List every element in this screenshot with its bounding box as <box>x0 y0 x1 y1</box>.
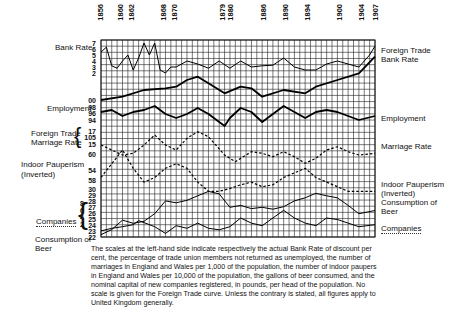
series-employment <box>101 106 375 126</box>
tick-pa-60: 60 <box>78 151 96 158</box>
label-indoor-pauperism: Indoor Pauperism <box>21 160 84 169</box>
series-indoor-pauperism-inverted <box>101 150 375 191</box>
tick-pa-54: 54 <box>78 167 96 174</box>
right-label-inverted: (Inverted) <box>381 189 415 198</box>
series-consumption-of-beer <box>101 191 375 234</box>
tick-comp-2: 2 <box>70 221 84 228</box>
series-companies <box>101 210 375 233</box>
tick-comp-6: 6 <box>70 207 84 214</box>
tick-ft-105: 105 <box>78 134 96 141</box>
tick-bank-2: 2 <box>78 70 96 77</box>
right-label-foreign-trade: Foreign Trade <box>381 46 431 55</box>
right-label-marriage-rate: Marriage Rate <box>381 142 432 151</box>
series-marriage-rate <box>101 132 375 164</box>
right-label-beer: Beer <box>381 207 398 216</box>
right-label-bank-rate: Bank Rate <box>381 55 418 64</box>
right-label-employment: Employment <box>381 114 425 123</box>
chart-caption: The scales at the left-hand side indicat… <box>91 245 381 308</box>
tick-emp-94: 94 <box>78 117 96 124</box>
right-label-consumption-of: Consumption of <box>381 198 437 207</box>
tick-pa-58: 58 <box>78 177 96 184</box>
label-beer: Beer <box>35 244 52 253</box>
right-label-indoor-pauperism: Indoor Pauperism <box>381 180 444 189</box>
tick-comp-8: 8 <box>70 200 84 207</box>
tick-emp-96: 96 <box>78 110 96 117</box>
tick-emp-00: 00 <box>78 97 96 104</box>
series-bank-rate <box>101 43 375 73</box>
right-label-companies: Companies <box>381 224 421 234</box>
tick-comp-4: 4 <box>70 214 84 221</box>
tick-mr-15: 15 <box>78 141 96 148</box>
tick-beer-22: 22 <box>78 234 96 241</box>
label-inverted: (Inverted) <box>21 170 55 179</box>
